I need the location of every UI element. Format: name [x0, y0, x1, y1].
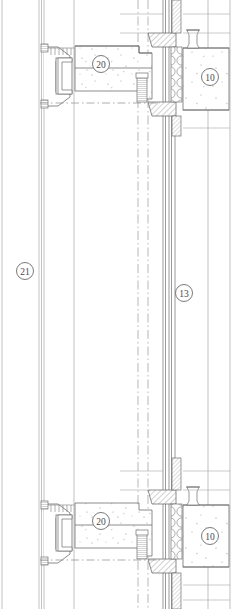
callout-20-bottom[interactable]: 20	[93, 513, 110, 530]
thermal-insulation-top	[171, 47, 182, 102]
anchor-bolt-top	[137, 77, 147, 102]
firestop-strip-bottom-b	[172, 573, 181, 609]
callout-13[interactable]: 13	[176, 285, 193, 302]
technical-section-drawing: 201021132010	[0, 0, 232, 609]
callout-label: 10	[205, 73, 215, 83]
callout-21[interactable]: 21	[17, 263, 34, 280]
firestop-strip-bottom	[172, 458, 181, 490]
callout-label: 10	[205, 532, 215, 542]
callout-label: 13	[179, 289, 189, 299]
curtain-wall-mullion-bottom	[41, 501, 72, 565]
callout-20-top[interactable]: 20	[93, 56, 110, 73]
callout-10-bottom[interactable]: 10	[202, 528, 219, 545]
drawing-canvas: 201021132010	[0, 0, 232, 609]
steel-angle-bracket-top	[148, 33, 176, 47]
curtain-wall-mullion-top	[41, 44, 72, 108]
anchor-bolt-bottom	[137, 534, 147, 559]
steel-angle-bracket-bottom	[148, 490, 176, 504]
callout-label: 20	[96, 517, 106, 527]
firestop-strip-top-b	[172, 116, 181, 136]
callout-label: 20	[96, 60, 106, 70]
thermal-insulation-bottom	[171, 504, 182, 559]
steel-angle-bracket-top-lower	[148, 102, 176, 116]
callout-10-top[interactable]: 10	[202, 69, 219, 86]
callout-label: 21	[20, 267, 30, 277]
firestop-strip-top	[172, 0, 181, 33]
steel-angle-bracket-bottom-lower	[148, 559, 176, 573]
